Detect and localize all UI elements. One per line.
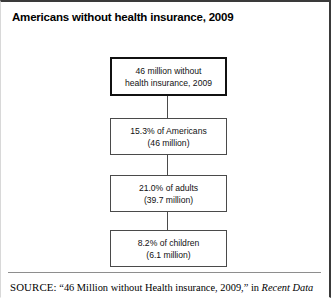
- footer-divider: [8, 272, 321, 273]
- flowchart: 46 million without health insurance, 200…: [1, 36, 331, 269]
- source-label: SOURCE:: [10, 281, 57, 293]
- flow-connector-1: [167, 96, 168, 118]
- flow-node-children: 8.2% of children (6.1 million): [110, 230, 227, 267]
- source-note: SOURCE: “46 Million without Health insur…: [10, 281, 323, 294]
- flow-node-children-line-2: (6.1 million): [146, 249, 190, 261]
- figure-container: Americans without health insurance, 2009…: [0, 0, 331, 298]
- flow-node-total-line-1: 46 million without: [136, 65, 202, 77]
- flow-node-total-line-2: health insurance, 2009: [125, 77, 212, 89]
- source-title: “46 Million without Health insurance, 20…: [59, 282, 248, 293]
- flow-node-all-americans-line-1: 15.3% of Americans: [130, 125, 206, 137]
- flow-node-all-americans-line-2: (46 million): [147, 137, 189, 149]
- source-publication: Recent Data: [262, 282, 314, 293]
- flow-node-adults-line-2: (39.7 million): [144, 194, 193, 206]
- flow-connector-2: [167, 155, 168, 175]
- flow-node-total: 46 million without health insurance, 200…: [110, 57, 227, 96]
- flow-node-all-americans: 15.3% of Americans (46 million): [110, 118, 227, 155]
- flow-node-adults-line-1: 21.0% of adults: [139, 182, 198, 194]
- flow-node-children-line-1: 8.2% of children: [138, 237, 200, 249]
- source-connector: in: [251, 282, 259, 293]
- page-title: Americans without health insurance, 2009: [12, 11, 233, 23]
- title-bar: Americans without health insurance, 2009: [1, 2, 329, 36]
- flow-node-adults: 21.0% of adults (39.7 million): [110, 175, 227, 212]
- flow-connector-3: [167, 212, 168, 230]
